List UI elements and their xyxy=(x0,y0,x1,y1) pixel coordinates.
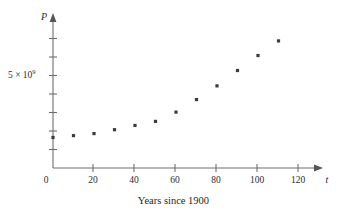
y-axis-label: P xyxy=(40,11,47,22)
data-point xyxy=(195,98,198,101)
x-axis-label: t xyxy=(326,174,329,185)
data-point-series xyxy=(51,39,280,139)
x-axis-arrow-icon xyxy=(314,165,323,172)
y-tick-label-exponent: 9 xyxy=(32,68,35,75)
data-point xyxy=(236,69,239,72)
data-point xyxy=(133,124,136,127)
data-point xyxy=(72,134,75,137)
x-tick-label-120: 120 xyxy=(291,175,306,185)
data-point xyxy=(256,54,259,57)
data-point xyxy=(174,111,177,114)
x-tick-label-0: 0 xyxy=(44,175,49,185)
data-point xyxy=(277,39,280,42)
x-tick-label-60: 60 xyxy=(170,175,180,185)
data-point xyxy=(215,84,218,87)
data-point xyxy=(51,136,54,139)
data-point xyxy=(154,120,157,123)
x-tick-label-100: 100 xyxy=(250,175,265,185)
y-tick-label-5e9: 5 × 109 xyxy=(8,71,36,81)
plot-area: 0 20 40 60 80 100 120 P t xyxy=(0,0,347,215)
x-tick-label-20: 20 xyxy=(88,175,98,185)
population-scatter-figure: 0 20 40 60 80 100 120 P t 5 × 109 Years … xyxy=(0,0,347,215)
data-point xyxy=(113,128,116,131)
data-point xyxy=(92,132,95,135)
y-axis-arrow-icon xyxy=(50,13,57,22)
x-tick-label-40: 40 xyxy=(129,175,139,185)
figure-caption: Years since 1900 xyxy=(0,195,347,206)
y-tick-label-mantissa: 5 × 10 xyxy=(8,70,32,80)
x-tick-label-80: 80 xyxy=(211,175,221,185)
